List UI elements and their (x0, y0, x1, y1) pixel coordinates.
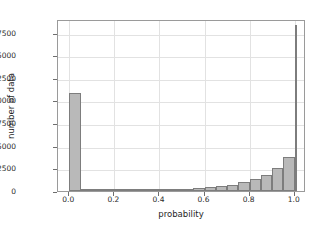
histogram-bar (272, 168, 283, 191)
x-tick-label: 0.8 (243, 196, 255, 204)
histogram-bar (148, 189, 159, 191)
y-tick-label: 5000 (0, 143, 16, 151)
y-tick-label: 17500 (0, 30, 16, 38)
histogram-bar (283, 157, 294, 191)
histogram-figure: number of data 0250050007500100001250015… (0, 0, 325, 244)
plot-area (57, 20, 305, 192)
y-tick-label: 0 (11, 188, 16, 196)
histogram-bar (205, 187, 216, 191)
y-tick-mark (53, 101, 57, 102)
histogram-bar (193, 188, 204, 191)
histogram-bar (261, 175, 272, 191)
histogram-bar (92, 189, 103, 191)
x-axis-label: probability (57, 209, 305, 219)
histogram-bar (182, 189, 193, 191)
histogram-bar (159, 189, 170, 191)
histogram-bar (81, 189, 92, 191)
histogram-bar (126, 189, 137, 191)
y-tick-label: 2500 (0, 166, 16, 174)
y-tick-mark (53, 79, 57, 80)
histogram-bar (103, 189, 114, 191)
y-tick-mark (53, 147, 57, 148)
y-tick-label: 7500 (0, 120, 16, 128)
y-tick-mark (53, 124, 57, 125)
y-tick-label: 15000 (0, 52, 16, 60)
histogram-bar (250, 179, 261, 191)
y-tick-mark (53, 169, 57, 170)
histogram-bar (137, 189, 148, 191)
y-tick-label: 10000 (0, 98, 16, 106)
histogram-bar (238, 182, 249, 191)
y-tick-mark (53, 34, 57, 35)
y-tick-mark (53, 192, 57, 193)
y-tick-mark (53, 56, 57, 57)
histogram-bar (69, 93, 80, 191)
x-tick-label: 0.2 (107, 196, 119, 204)
histogram-bars (58, 21, 304, 191)
histogram-bar (227, 185, 238, 191)
histogram-bar (171, 189, 182, 191)
histogram-bar (216, 186, 227, 191)
x-tick-label: 0.4 (152, 196, 164, 204)
x-tick-label: 0.0 (62, 196, 74, 204)
histogram-bar (295, 25, 297, 191)
x-tick-label: 1.0 (288, 196, 300, 204)
x-tick-label: 0.6 (198, 196, 210, 204)
histogram-bar (114, 189, 125, 191)
y-tick-label: 12500 (0, 75, 16, 83)
